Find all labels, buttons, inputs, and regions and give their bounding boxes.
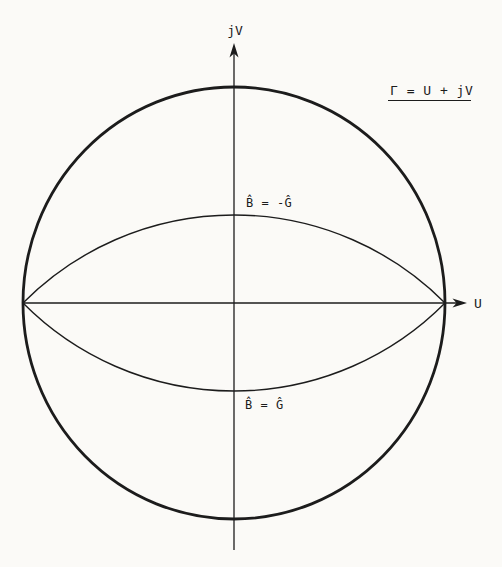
horizontal-axis-label: U xyxy=(474,296,482,311)
gamma-equation-label: Γ = U + jV xyxy=(390,83,473,98)
gamma-plane-figure: jV U Γ = U + jV B̂ = -Ĝ B̂ = Ĝ xyxy=(0,0,502,567)
gamma-plane-diagram: jV U Γ = U + jV B̂ = -Ĝ B̂ = Ĝ xyxy=(0,0,502,567)
lower-arc-label: B̂ = Ĝ xyxy=(245,396,284,412)
vertical-axis-label: jV xyxy=(227,23,243,38)
upper-arc-label: B̂ = -Ĝ xyxy=(246,194,292,210)
